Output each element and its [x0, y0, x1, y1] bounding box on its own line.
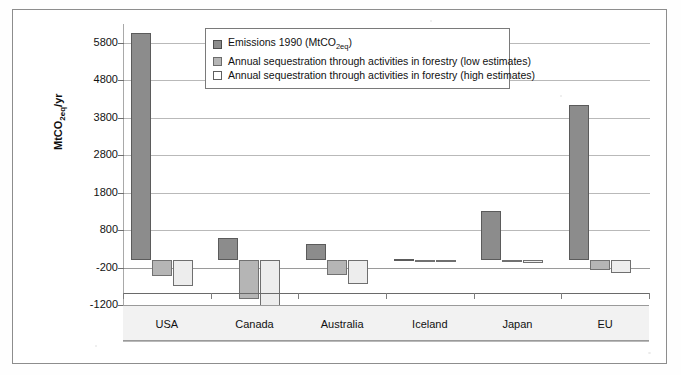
legend-swatch-emissions	[213, 40, 222, 49]
y-axis-tick-label: 800	[66, 224, 118, 235]
x-axis-label-eu: EU	[561, 318, 649, 330]
bar-emissions-japan	[481, 211, 501, 260]
bar-emissions-iceland	[394, 259, 414, 261]
legend-swatch-low	[213, 57, 222, 66]
x-axis-tick	[474, 293, 475, 299]
x-axis-tick	[211, 293, 212, 299]
y-axis-tick-label: -1200	[66, 299, 118, 310]
x-axis-label-canada: Canada	[211, 318, 299, 330]
legend-item-emissions: Emissions 1990 (MtCO2eq)	[213, 36, 502, 53]
scan-artifact	[300, 60, 302, 62]
chart-figure: MtCO2eq/yr -1200-20080018002800380048005…	[0, 0, 681, 375]
legend-label-low: Annual sequestration through activities …	[228, 55, 531, 67]
y-axis-tick-label: 2800	[66, 149, 118, 160]
bar-high-japan	[523, 260, 543, 263]
bar-high-usa	[173, 260, 193, 285]
y-axis-labels: -1200-20080018002800380048005800	[60, 24, 118, 305]
bar-low-australia	[327, 260, 347, 275]
x-axis-label-australia: Australia	[298, 318, 386, 330]
scan-artifact	[560, 95, 562, 97]
x-axis-tick	[386, 293, 387, 299]
plot-bottom-line	[123, 341, 649, 342]
legend-label-emissions: Emissions 1990 (MtCO2eq)	[228, 36, 352, 53]
bar-group-usa	[124, 24, 212, 305]
legend-label-high: Annual sequestration through activities …	[228, 69, 535, 81]
bar-emissions-eu	[569, 105, 589, 260]
chart-legend: Emissions 1990 (MtCO2eq)Annual sequestra…	[205, 28, 510, 89]
bar-emissions-australia	[306, 244, 326, 260]
x-axis-tick	[649, 293, 650, 299]
bar-low-eu	[590, 260, 610, 270]
bar-low-usa	[152, 260, 172, 276]
legend-item-low: Annual sequestration through activities …	[213, 55, 502, 67]
x-axis-label-japan: Japan	[474, 318, 562, 330]
bar-high-eu	[611, 260, 631, 273]
bar-high-australia	[348, 260, 368, 284]
bar-emissions-canada	[218, 238, 238, 260]
y-axis-tick-label: 4800	[66, 74, 118, 85]
y-axis-tick-label: 3800	[66, 112, 118, 123]
bar-low-japan	[502, 260, 522, 262]
y-axis-tick-label: 1800	[66, 187, 118, 198]
bar-group-eu	[562, 24, 650, 305]
bar-low-iceland	[415, 260, 435, 262]
x-axis-label-usa: USA	[123, 318, 211, 330]
x-axis-tick	[561, 293, 562, 299]
x-axis-tick	[298, 293, 299, 299]
scan-artifact	[430, 20, 432, 22]
y-axis-tick-label: -200	[66, 262, 118, 273]
y-axis-tick-label: 5800	[66, 37, 118, 48]
legend-item-high: Annual sequestration through activities …	[213, 69, 502, 81]
bar-high-iceland	[436, 260, 456, 262]
bar-emissions-usa	[131, 33, 151, 260]
scan-artifact	[648, 352, 651, 354]
scan-artifact	[95, 345, 97, 347]
x-axis-tick	[123, 293, 124, 299]
x-axis-label-iceland: Iceland	[386, 318, 474, 330]
legend-swatch-high	[213, 71, 222, 80]
